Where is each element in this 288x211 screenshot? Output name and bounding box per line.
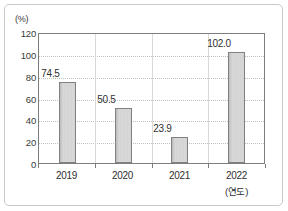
x-tick-mark <box>152 164 153 168</box>
bar-2022 <box>228 52 245 163</box>
x-tick-mark <box>265 164 266 168</box>
bar-value-2022: 102.0 <box>195 38 243 49</box>
bar-value-2020: 50.5 <box>84 94 129 105</box>
bar-value-2019: 74.5 <box>28 68 73 79</box>
bar-2021 <box>171 137 188 163</box>
x-axis-label-2020: 2020 <box>99 170 146 181</box>
bar-2020 <box>115 108 132 163</box>
category-separator <box>208 34 209 163</box>
x-tick-mark <box>208 164 209 168</box>
plot-area <box>38 33 265 164</box>
x-tick-mark <box>95 164 96 168</box>
bar-2019 <box>59 82 76 163</box>
y-axis-tick-labels: 120 100 80 60 40 20 0 <box>0 33 36 164</box>
x-axis-label-2021: 2021 <box>156 170 203 181</box>
y-tick-label: 40 <box>2 115 36 126</box>
x-axis-label-2022: 2022 <box>213 170 260 181</box>
bar-chart-figure: (%) 120 100 80 60 40 20 0 74.5 50.5 23.9… <box>0 0 288 211</box>
y-tick-label: 60 <box>2 93 36 104</box>
y-tick-label: 20 <box>2 137 36 148</box>
x-axis-unit-label: (연도) <box>213 184 260 198</box>
y-axis-unit-label: (%) <box>15 14 28 24</box>
category-separator <box>152 34 153 163</box>
x-axis-label-2019: 2019 <box>43 170 90 181</box>
y-tick-label: 120 <box>2 28 36 39</box>
bar-value-2021: 23.9 <box>140 123 185 134</box>
y-tick-label: 100 <box>2 49 36 60</box>
y-tick-label: 0 <box>2 159 36 170</box>
x-tick-mark <box>38 164 39 168</box>
